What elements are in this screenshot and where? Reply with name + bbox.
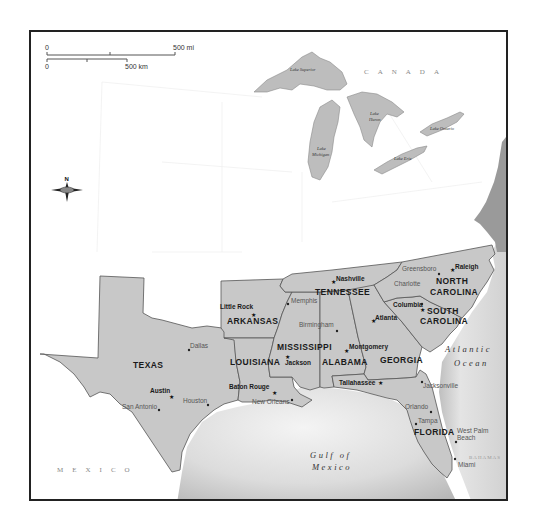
scale-mi-end: 500 mi bbox=[173, 44, 194, 51]
capital-label-tallahassee: Tallahassee bbox=[339, 379, 376, 386]
state-label-alabama: ALABAMA bbox=[322, 357, 368, 367]
state-label-mississippi: MISSISSIPPI bbox=[277, 342, 332, 352]
atlantic-label-2: Ocean bbox=[454, 358, 489, 368]
city-label-birmingham: Birmingham bbox=[299, 321, 334, 329]
capital-label-austin: Austin bbox=[150, 387, 170, 394]
city-label-san-antonio: San Antonio bbox=[122, 403, 157, 410]
state-label-south-carolina-2: CAROLINA bbox=[420, 316, 468, 326]
scale-km-end: 500 km bbox=[125, 63, 148, 70]
capital-label-raleigh: Raleigh bbox=[455, 263, 479, 271]
map-canvas: 0 500 mi 0 500 km N CANADA MEXICO Lake S… bbox=[31, 32, 508, 501]
city-label-jacksonville: Jacksonville bbox=[423, 382, 458, 389]
star-icon: ★ bbox=[169, 394, 174, 400]
lake-erie-label: Lake Erie bbox=[393, 156, 412, 161]
compass-north-label: N bbox=[65, 176, 69, 182]
city-label-greensboro: Greensboro bbox=[402, 265, 437, 272]
lake-huron-label-2: Huron bbox=[368, 117, 381, 122]
map-frame: 0 500 mi 0 500 km N CANADA MEXICO Lake S… bbox=[29, 30, 508, 501]
gulf-label-1: Gulf of bbox=[310, 450, 351, 460]
capital-label-atlanta: Atlanta bbox=[375, 314, 397, 321]
bahamas-label: BAHAMAS bbox=[469, 455, 501, 460]
state-label-florida: FLORIDA bbox=[414, 427, 455, 437]
country-label-canada: CANADA bbox=[364, 68, 448, 76]
compass-center-icon bbox=[60, 187, 74, 193]
capital-label-jackson: Jackson bbox=[285, 359, 311, 366]
state-label-tennessee: TENNESSEE bbox=[315, 287, 370, 297]
capital-label-baton-rouge: Baton Rouge bbox=[229, 383, 270, 391]
state-label-texas: TEXAS bbox=[133, 360, 163, 370]
city-label-houston: Houston bbox=[183, 397, 208, 404]
capital-label-little-rock: Little Rock bbox=[220, 303, 254, 310]
atlantic-label-1: Atlantic bbox=[444, 344, 492, 354]
state-label-north-carolina-1: NORTH bbox=[436, 276, 468, 286]
state-label-georgia: GEORGIA bbox=[380, 355, 423, 365]
star-icon: ★ bbox=[272, 390, 277, 396]
city-label-new-orleans: New Orleans bbox=[252, 398, 290, 405]
capital-label-columbia: Columbia bbox=[393, 301, 423, 308]
lake-michigan-label-2: Michigan bbox=[311, 152, 330, 157]
state-label-south-carolina-1: SOUTH bbox=[427, 306, 459, 316]
city-label-dallas: Dallas bbox=[190, 342, 209, 349]
country-label-mexico: MEXICO bbox=[57, 466, 139, 474]
scale-mi-start: 0 bbox=[45, 44, 49, 51]
city-label-memphis: Memphis bbox=[291, 297, 318, 305]
city-label-tampa: Tampa bbox=[418, 417, 438, 425]
star-icon: ★ bbox=[378, 380, 383, 386]
star-icon: ★ bbox=[251, 312, 256, 318]
city-label-beach: Beach bbox=[457, 434, 476, 441]
lake-michigan-label-1: Lake bbox=[316, 146, 326, 151]
capital-label-montgomery: Montgomery bbox=[349, 343, 388, 351]
city-label-orlando: Orlando bbox=[405, 403, 429, 410]
lake-ontario-label: Lake Ontario bbox=[429, 126, 455, 131]
city-label-charlotte: Charlotte bbox=[394, 280, 421, 287]
gulf-label-2: Mexico bbox=[311, 462, 352, 472]
lake-huron-label-1: Lake bbox=[369, 111, 379, 116]
capital-label-nashville: Nashville bbox=[336, 275, 365, 282]
scale-km-start: 0 bbox=[45, 63, 49, 70]
lake-superior-label: Lake Superior bbox=[289, 67, 316, 72]
state-label-north-carolina-2: CAROLINA bbox=[430, 287, 478, 297]
state-label-louisiana: LOUISIANA bbox=[230, 357, 280, 367]
city-label-west-palm: West Palm bbox=[457, 427, 488, 434]
city-label-miami: Miami bbox=[458, 461, 475, 468]
